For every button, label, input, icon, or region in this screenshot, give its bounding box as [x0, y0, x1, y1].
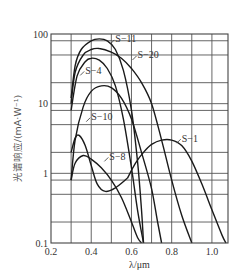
curve-label: S−11 [115, 33, 136, 44]
leader-line [132, 56, 136, 60]
x-tick-label: 1.0 [206, 246, 219, 257]
curve-label: S−4 [85, 65, 101, 76]
x-tick-labels: 0.20.40.60.81.0 [45, 246, 218, 257]
curve-label: S−1 [182, 133, 198, 144]
y-axis-label: 光谱响应/(mA·W⁻¹) [12, 95, 23, 183]
y-tick-label: 1 [43, 168, 48, 179]
x-tick-label: 0.8 [165, 246, 178, 257]
curve-s-1-uv-bump- [71, 135, 127, 192]
curve-label: S−10 [91, 111, 112, 122]
leader-line [104, 157, 108, 161]
y-tick-label: 10 [38, 98, 48, 109]
curve-label: S−20 [137, 49, 158, 60]
y-tick-label: 0.1 [36, 238, 49, 249]
x-tick-label: 0.4 [85, 246, 98, 257]
spectral-response-chart: S−11S−20S−4S−10S−8S−1 0.20.40.60.81.0 0.… [0, 0, 244, 280]
curve-label: S−8 [109, 151, 125, 162]
x-axis-label: λ/μm [129, 259, 150, 270]
curve-s-10 [71, 86, 162, 243]
leader-line [80, 71, 84, 75]
y-tick-labels: 0.1110100 [33, 29, 48, 249]
x-tick-label: 0.6 [125, 246, 138, 257]
y-tick-label: 100 [33, 29, 48, 40]
leader-line [86, 118, 90, 122]
